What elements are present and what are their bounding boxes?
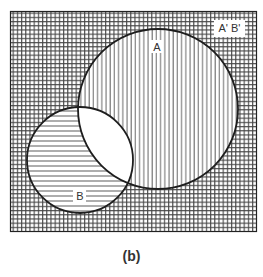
universe-label: A' B': [219, 22, 241, 34]
figure-caption: (b): [0, 248, 263, 264]
set-b-label: B: [76, 190, 83, 202]
set-a-label: A: [153, 41, 161, 53]
venn-diagram: A' B' A B: [0, 0, 263, 240]
